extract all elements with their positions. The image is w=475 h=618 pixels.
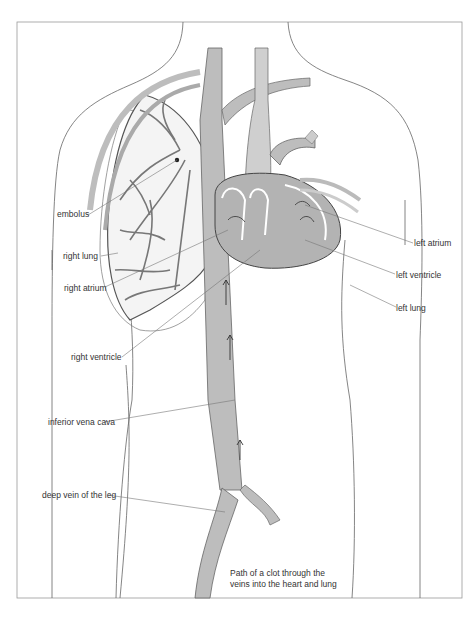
label-deep-vein: deep vein of the leg bbox=[42, 490, 116, 500]
label-left-lung: left lung bbox=[396, 303, 426, 313]
caption: Path of a clot through the veins into th… bbox=[230, 568, 337, 590]
label-embolus: embolus bbox=[57, 209, 89, 219]
label-inferior-vena-cava: inferior vena cava bbox=[48, 417, 115, 427]
right-lung-vessels bbox=[108, 95, 212, 320]
caption-line-2: veins into the heart and lung bbox=[230, 579, 337, 590]
caption-line-1: Path of a clot through the bbox=[230, 568, 337, 579]
pulmonary-artery bbox=[270, 138, 315, 165]
heart bbox=[215, 173, 341, 268]
label-left-ventricle: left ventricle bbox=[396, 270, 441, 280]
label-right-lung: right lung bbox=[63, 251, 98, 261]
label-right-ventricle: right ventricle bbox=[71, 352, 122, 362]
label-left-atrium: left atrium bbox=[414, 238, 451, 248]
iliac-vein-left bbox=[240, 485, 280, 525]
label-right-atrium: right atrium bbox=[64, 283, 107, 293]
